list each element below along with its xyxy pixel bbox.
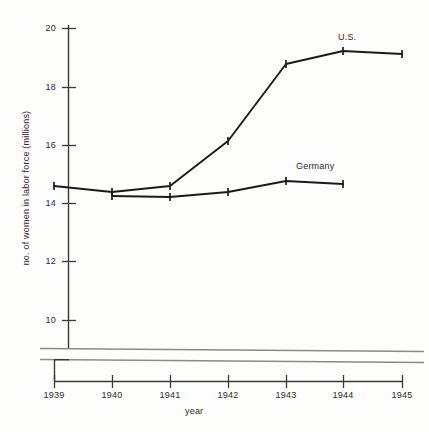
x-tick-label-1939: 1939 <box>34 390 74 400</box>
series-line-us <box>54 51 402 192</box>
y-tick-label-14: 14 <box>32 198 56 208</box>
series-label-us: U.S. <box>338 32 356 42</box>
x-tick-label-1941: 1941 <box>150 390 190 400</box>
y-tick-label-16: 16 <box>32 140 56 150</box>
line-chart-canvas <box>0 0 429 432</box>
x-axis-title: year <box>185 406 203 416</box>
x-tick-label-1943: 1943 <box>266 390 306 400</box>
x-tick-label-1945: 1945 <box>382 390 422 400</box>
x-tick-label-1942: 1942 <box>208 390 248 400</box>
y-tick-label-12: 12 <box>32 256 56 266</box>
y-axis-title: no. of women in labor force (millions) <box>21 78 31 298</box>
y-tick-label-10: 10 <box>32 315 56 325</box>
axis-break-line-top <box>40 349 424 352</box>
chart-figure: 20 18 16 14 12 10 1939 1940 1941 1942 19… <box>0 0 429 432</box>
y-tick-label-20: 20 <box>32 23 56 33</box>
y-tick-label-18: 18 <box>32 82 56 92</box>
x-tick-label-1944: 1944 <box>323 390 363 400</box>
axis-break-line-bottom <box>40 360 424 363</box>
series-label-germany: Germany <box>296 161 334 171</box>
x-tick-label-1940: 1940 <box>92 390 132 400</box>
series-markers-us <box>54 47 402 196</box>
